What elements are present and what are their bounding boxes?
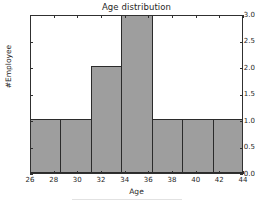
histogram-bar <box>121 15 152 173</box>
x-axis-tick-mark <box>77 15 78 18</box>
y-axis-tick-mark <box>30 68 33 69</box>
x-axis-tick-mark <box>77 171 78 174</box>
y-axis-tick-mark <box>240 174 243 175</box>
x-axis-tick-mark <box>243 171 244 174</box>
x-axis-tick-mark <box>219 171 220 174</box>
histogram-bar <box>182 119 213 173</box>
x-axis-tick-label: 30 <box>66 177 88 184</box>
x-axis-tick-mark <box>30 15 31 18</box>
histogram-bar <box>152 119 183 173</box>
y-axis-tick-mark <box>240 121 243 122</box>
plot-area <box>30 15 243 174</box>
x-axis-tick-mark <box>196 171 197 174</box>
histogram-bar <box>91 66 122 173</box>
x-axis-tick-label: 26 <box>19 177 41 184</box>
x-axis-tick-mark <box>219 15 220 18</box>
histogram-bar <box>30 119 61 173</box>
y-axis-tick-label: 1.5 <box>231 91 255 98</box>
x-axis-tick-mark <box>125 171 126 174</box>
x-axis-tick-label: 36 <box>137 177 159 184</box>
x-axis-tick-label: 38 <box>161 177 183 184</box>
y-axis-tick-mark <box>240 68 243 69</box>
x-axis-label: Age <box>30 187 243 196</box>
x-axis-tick-label: 34 <box>114 177 136 184</box>
y-axis-tick-mark <box>240 95 243 96</box>
y-axis-tick-mark <box>30 148 33 149</box>
y-axis-label: #Employee <box>4 32 13 102</box>
x-axis-tick-mark <box>101 171 102 174</box>
x-axis-tick-label: 32 <box>90 177 112 184</box>
x-axis-tick-label: 28 <box>43 177 65 184</box>
x-axis-tick-mark <box>243 15 244 18</box>
x-axis-tick-mark <box>30 171 31 174</box>
x-axis-tick-label: 40 <box>185 177 207 184</box>
y-axis-tick-label: 2.0 <box>231 65 255 72</box>
x-axis-tick-mark <box>125 15 126 18</box>
y-axis-tick-label: 2.5 <box>231 38 255 45</box>
y-axis-tick-label: 1.0 <box>231 118 255 125</box>
histogram-bar <box>60 119 91 173</box>
x-axis-tick-label: 42 <box>208 177 230 184</box>
x-axis-tick-mark <box>101 15 102 18</box>
x-axis-tick-mark <box>172 171 173 174</box>
y-axis-tick-mark <box>30 121 33 122</box>
y-axis-tick-mark <box>240 42 243 43</box>
x-axis-tick-mark <box>54 171 55 174</box>
x-axis-tick-mark <box>172 15 173 18</box>
y-axis-tick-label: 0.5 <box>231 144 255 151</box>
x-axis-tick-mark <box>148 15 149 18</box>
y-axis-tick-mark <box>30 174 33 175</box>
x-axis-tick-label: 44 <box>232 177 254 184</box>
x-axis-tick-mark <box>148 171 149 174</box>
y-axis-tick-mark <box>30 95 33 96</box>
footer-artifact-line <box>72 199 182 200</box>
x-axis-tick-mark <box>54 15 55 18</box>
chart-title: Age distribution <box>30 2 243 12</box>
y-axis-tick-mark <box>240 148 243 149</box>
chart-figure: Age distribution 0.00.51.01.52.02.53.0 2… <box>0 0 255 205</box>
x-axis-tick-mark <box>196 15 197 18</box>
y-axis-tick-mark <box>30 42 33 43</box>
